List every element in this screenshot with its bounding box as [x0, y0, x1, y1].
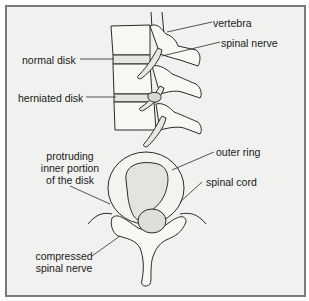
vertebral-body-1 [111, 25, 150, 55]
label-protruding-line3: of the disk [38, 174, 102, 186]
leader-outer-ring [172, 152, 214, 170]
top-view-vertebra [88, 152, 206, 286]
leader-vertebra [167, 22, 212, 32]
label-outer-ring: outer ring [216, 146, 260, 158]
side-view-spine [111, 12, 201, 147]
label-protruding-line2: inner portion [38, 162, 102, 174]
left-nerve-wisp [88, 213, 112, 224]
normal-disk-shape [113, 55, 150, 64]
label-herniated-disk: herniated disk [18, 92, 83, 104]
label-protruding-line1: protruding [38, 150, 102, 162]
leader-protruding [70, 186, 110, 204]
label-compressed-line1: compressed [30, 250, 98, 262]
label-compressed-line2: spinal nerve [30, 262, 98, 274]
label-spinal-nerve: spinal nerve [221, 37, 278, 49]
label-protruding-inner-portion: protruding inner portion of the disk [38, 150, 102, 186]
label-vertebra: vertebra [213, 17, 252, 29]
herniated-bulge [148, 92, 161, 102]
spinal-cord-shape [138, 209, 166, 233]
label-normal-disk: normal disk [22, 54, 76, 66]
label-spinal-cord: spinal cord [206, 176, 257, 188]
label-compressed-spinal-nerve: compressed spinal nerve [30, 250, 98, 274]
